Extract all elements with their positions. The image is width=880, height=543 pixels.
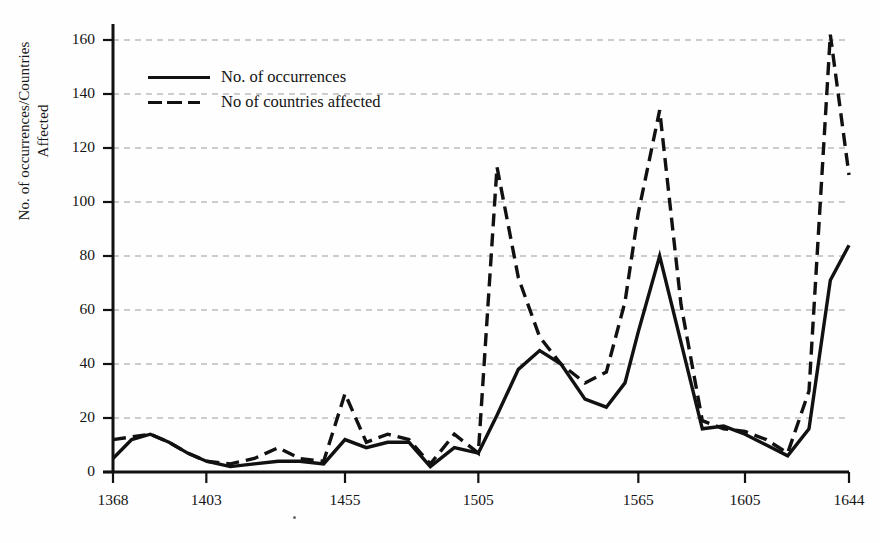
gridlines-group [113,40,849,418]
x-tick-label: 1605 [710,491,780,509]
y-tick-label: 60 [45,300,95,318]
axes-group [103,24,849,472]
x-tick-label: 1455 [310,491,380,509]
x-ticks-group [113,472,849,483]
y-tick-label: 140 [45,84,95,102]
y-tick-label: 100 [45,192,95,210]
series-line-countries-affected [113,35,849,464]
y-tick-label: 160 [45,30,95,48]
x-tick-label: 1403 [171,491,241,509]
x-tick-label: 1505 [443,491,513,509]
x-tick-label: 1565 [603,491,673,509]
y-tick-label: 0 [45,462,95,480]
page-speck-artifact [293,516,296,519]
y-tick-label: 120 [45,138,95,156]
y-tick-label: 20 [45,408,95,426]
y-tick-label: 80 [45,246,95,264]
x-tick-label: 1368 [78,491,148,509]
plot-area [0,0,880,543]
y-tick-label: 40 [45,354,95,372]
chart-container: No. of occurrences/Countries Affected No… [0,0,880,543]
x-tick-label: 1644 [814,491,880,509]
